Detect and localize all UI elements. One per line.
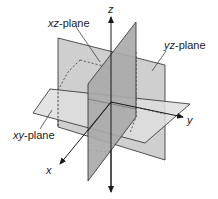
x-axis-label: x (45, 164, 52, 176)
y-axis-label: y (186, 114, 194, 126)
yz-plane-label: yz-plane (163, 39, 206, 51)
xz-plane (88, 22, 136, 181)
xz-plane-label-prefix: xz (47, 17, 60, 29)
coordinate-planes-diagram: z y x xz-plane yz-plane xy-plane (0, 0, 218, 199)
xy-plane-label: xy-plane (12, 129, 55, 141)
xz-plane-label: xz-plane (47, 17, 90, 29)
yz-plane-label-prefix: yz (163, 39, 176, 51)
z-axis-label: z (107, 3, 114, 15)
xz-plane-label-suffix: -plane (59, 17, 90, 29)
yz-plane-label-suffix: -plane (175, 39, 206, 51)
xy-plane-label-suffix: -plane (24, 129, 55, 141)
